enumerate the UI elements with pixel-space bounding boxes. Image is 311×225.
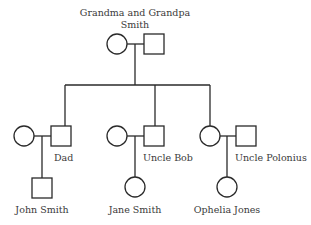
dad-male-icon	[51, 126, 71, 146]
uncle-bob-male-icon	[144, 126, 164, 146]
ophelia-female-icon	[217, 177, 237, 197]
grandparents-label-line2: Smith	[121, 19, 150, 30]
ophelia-label: Ophelia Jones	[194, 204, 261, 215]
grandpa-male-icon	[144, 34, 164, 54]
aunt-female-icon	[200, 126, 220, 146]
john-label: John Smith	[14, 204, 68, 215]
jane-female-icon	[125, 177, 145, 197]
grandma-female-icon	[107, 34, 127, 54]
jane-label: Jane Smith	[108, 204, 162, 215]
mom-female-icon	[14, 126, 34, 146]
dad-label: Dad	[54, 152, 73, 163]
john-male-icon	[32, 178, 52, 198]
bob-wife-female-icon	[107, 126, 127, 146]
uncle-polonius-label: Uncle Polonius	[235, 152, 307, 163]
pedigree-chart: Grandma and Grandpa Smith Dad John Smith…	[0, 0, 311, 225]
uncle-bob-label: Uncle Bob	[143, 152, 193, 163]
grandparents-label-line1: Grandma and Grandpa	[80, 7, 191, 18]
uncle-polonius-male-icon	[236, 126, 256, 146]
